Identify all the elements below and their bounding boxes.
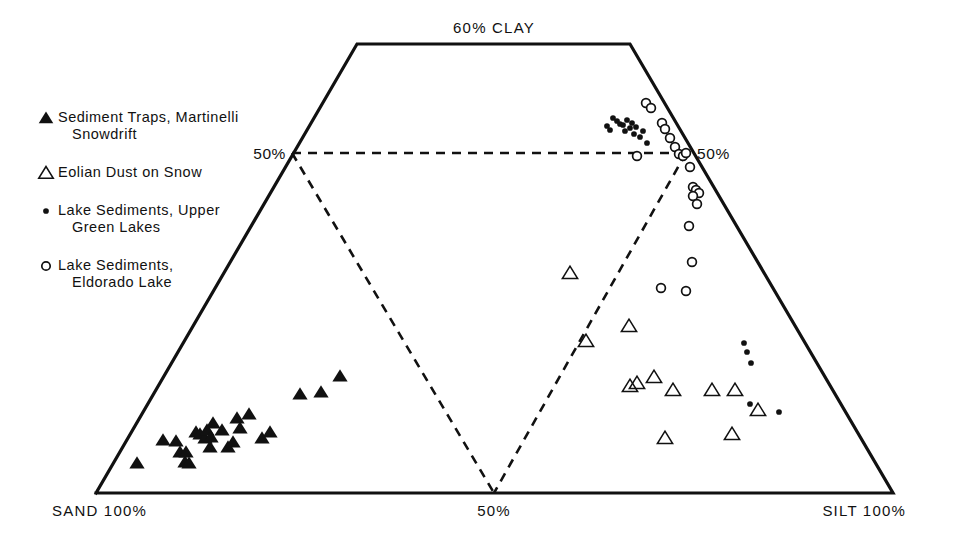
data-point: [704, 383, 719, 395]
legend-marker-filled-triangle: [39, 111, 54, 123]
center-50-label: 50%: [477, 502, 511, 519]
data-point: [562, 266, 577, 278]
data-point: [241, 407, 256, 419]
legend-label: Lake Sediments,: [58, 257, 174, 273]
legend-label: Eolian Dust on Snow: [58, 164, 202, 180]
data-point: [624, 117, 630, 123]
data-point: [262, 425, 277, 437]
data-point: [724, 427, 739, 439]
data-point: [620, 122, 626, 128]
legend-marker-dot: [43, 208, 49, 214]
data-point: [168, 434, 183, 446]
data-point: [332, 369, 347, 381]
legend-label-line2: Eldorado Lake: [72, 274, 172, 290]
data-point: [631, 131, 637, 137]
data-point: [607, 127, 613, 133]
right-50-tick-label: 50%: [697, 145, 730, 162]
data-point: [622, 128, 628, 134]
data-point: [155, 433, 170, 445]
series-1: [562, 266, 765, 443]
data-point: [622, 379, 637, 391]
data-point: [686, 163, 695, 172]
data-point: [621, 319, 636, 331]
legend-label-line2: Snowdrift: [72, 126, 137, 142]
data-point: [744, 349, 750, 355]
data-point: [661, 125, 670, 134]
legend: Sediment Traps, MartinelliSnowdriftEolia…: [39, 109, 239, 290]
sand-axis-label: SAND 100%: [52, 502, 147, 519]
data-point: [633, 152, 642, 161]
data-point: [727, 383, 742, 395]
data-point: [129, 456, 144, 468]
data-point: [693, 200, 702, 209]
data-point: [747, 401, 753, 407]
clay-apex-label: 60% CLAY: [453, 19, 535, 36]
data-point: [776, 409, 782, 415]
data-point: [633, 124, 639, 130]
series-0: [129, 369, 347, 468]
data-point: [313, 385, 328, 397]
data-point: [640, 128, 646, 134]
data-point: [741, 340, 747, 346]
data-point: [637, 134, 643, 140]
data-point: [647, 104, 656, 113]
data-point: [688, 258, 697, 267]
left-50-tick-label: 50%: [253, 145, 286, 162]
data-point: [205, 416, 220, 428]
ternary-texture-diagram: 60% CLAY SAND 100% 50% SILT 100% 50% 50%…: [0, 0, 958, 540]
data-point: [657, 284, 666, 293]
data-point: [666, 134, 675, 143]
legend-marker-open-triangle: [39, 166, 54, 178]
data-point: [748, 360, 754, 366]
legend-label-line2: Green Lakes: [72, 219, 161, 235]
legend-label: Lake Sediments, Upper: [58, 202, 220, 218]
dashed-sand-50-boundary: [292, 153, 494, 493]
data-point: [627, 125, 633, 131]
data-point: [685, 222, 694, 231]
data-point: [229, 411, 244, 423]
data-point: [657, 431, 672, 443]
legend-label: Sediment Traps, Martinelli: [58, 109, 239, 125]
data-point: [644, 140, 650, 146]
data-point: [682, 149, 691, 158]
data-point: [665, 383, 680, 395]
dashed-silt-50-boundary: [494, 153, 686, 493]
series-3: [633, 99, 704, 296]
data-point: [292, 387, 307, 399]
plot-canvas: 60% CLAY SAND 100% 50% SILT 100% 50% 50%…: [0, 0, 958, 540]
legend-marker-open-circle: [42, 262, 50, 270]
data-point: [682, 287, 691, 296]
data-point: [646, 370, 661, 382]
silt-axis-label: SILT 100%: [822, 502, 906, 519]
